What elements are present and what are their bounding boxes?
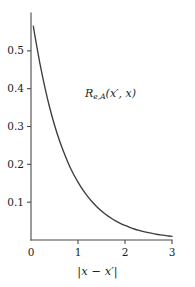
x-tick-label: 0 (28, 246, 35, 258)
x-axis-tick-marks (78, 240, 172, 244)
x-tick-label: 3 (169, 246, 176, 258)
curve-annotation-arguments: (x′, x) (106, 87, 136, 100)
y-tick-label: 0.1 (7, 196, 24, 208)
figure-container: 0.10.20.30.40.5 0123 Re,A(x′, x) |x − x′… (0, 0, 195, 287)
chart-canvas: 0.10.20.30.40.5 0123 (0, 0, 195, 287)
x-tick-label: 2 (122, 246, 129, 258)
curve-annotation-subscript: e,A (93, 92, 105, 101)
y-tick-label: 0.2 (7, 158, 24, 170)
axes-group (31, 13, 172, 240)
x-axis-tick-labels: 0123 (28, 246, 176, 258)
y-axis-tick-marks (27, 51, 31, 202)
y-axis-tick-labels: 0.10.20.30.40.5 (7, 44, 24, 207)
y-tick-label: 0.5 (7, 44, 24, 56)
x-axis-title: |x − x′| (0, 266, 195, 278)
y-tick-label: 0.4 (7, 82, 24, 94)
data-curve-Re-A (33, 26, 172, 236)
data-series-group (33, 26, 172, 236)
y-tick-label: 0.3 (7, 120, 24, 132)
x-tick-label: 1 (75, 246, 82, 258)
curve-annotation-label: Re,A(x′, x) (85, 88, 136, 100)
